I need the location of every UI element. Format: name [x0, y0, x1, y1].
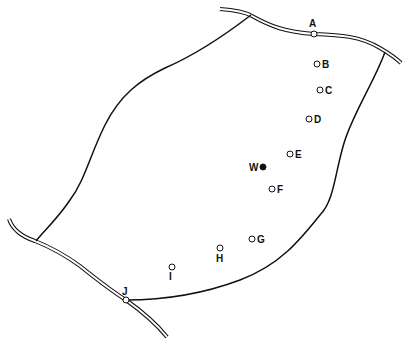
point-label: D: [314, 114, 321, 125]
point-label: W: [249, 162, 259, 173]
point-h: H: [216, 245, 223, 264]
point-label: H: [216, 253, 223, 264]
point-label: B: [322, 59, 329, 70]
point-label: C: [325, 85, 332, 96]
point-i: I: [169, 264, 175, 282]
point-label: A: [309, 18, 316, 29]
open-point-icon: [314, 61, 320, 67]
point-label: E: [295, 149, 302, 160]
point-w: W: [249, 162, 266, 173]
point-label: J: [122, 286, 128, 297]
open-point-icon: [269, 186, 275, 192]
point-e: E: [287, 149, 302, 160]
point-label: F: [277, 184, 283, 195]
open-point-icon: [311, 31, 317, 37]
open-point-icon: [169, 264, 175, 270]
boundary-left: [36, 15, 251, 241]
open-point-icon: [123, 297, 129, 303]
point-label: I: [169, 271, 172, 282]
open-point-icon: [306, 116, 312, 122]
point-f: F: [269, 184, 283, 195]
point-b: B: [314, 59, 329, 70]
point-c: C: [317, 85, 332, 96]
open-point-icon: [287, 151, 293, 157]
point-g: G: [249, 234, 265, 245]
bottom-road: [9, 219, 167, 337]
filled-point-icon: [260, 164, 266, 170]
point-label: G: [257, 234, 265, 245]
map-canvas: ABCDEWFGHIJ: [0, 0, 411, 347]
point-d: D: [306, 114, 321, 125]
boundary-right: [126, 52, 385, 300]
open-point-icon: [217, 245, 223, 251]
map-svg: ABCDEWFGHIJ: [0, 0, 411, 347]
open-point-icon: [317, 87, 323, 93]
points-layer: ABCDEWFGHIJ: [122, 18, 332, 303]
point-j: J: [122, 286, 129, 303]
open-point-icon: [249, 236, 255, 242]
